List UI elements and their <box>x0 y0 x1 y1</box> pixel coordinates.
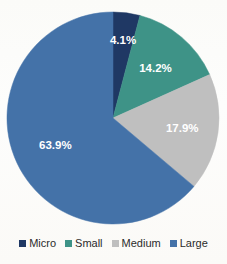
legend-item-small[interactable]: Small <box>65 238 103 249</box>
legend-swatch-icon <box>65 240 72 247</box>
legend-label: Micro <box>29 238 56 249</box>
legend-swatch-icon <box>19 240 26 247</box>
legend-label: Medium <box>122 238 161 249</box>
chart-legend: MicroSmallMediumLarge <box>0 232 227 254</box>
pie-label-small: 14.2% <box>139 62 172 74</box>
legend-item-large[interactable]: Large <box>170 238 208 249</box>
pie-label-micro: 4.1% <box>110 34 136 46</box>
pie-plot-area: 4.1%14.2%17.9%63.9% <box>0 0 227 232</box>
legend-label: Large <box>180 238 208 249</box>
pie-label-large: 63.9% <box>39 139 72 151</box>
pie-label-medium: 17.9% <box>166 122 199 134</box>
legend-swatch-icon <box>112 240 119 247</box>
legend-item-medium[interactable]: Medium <box>112 238 161 249</box>
legend-item-micro[interactable]: Micro <box>19 238 56 249</box>
legend-swatch-icon <box>170 240 177 247</box>
legend-label: Small <box>75 238 103 249</box>
pie-chart-figure: 4.1%14.2%17.9%63.9% MicroSmallMediumLarg… <box>0 0 227 264</box>
pie-svg: 4.1%14.2%17.9%63.9% <box>0 0 227 232</box>
